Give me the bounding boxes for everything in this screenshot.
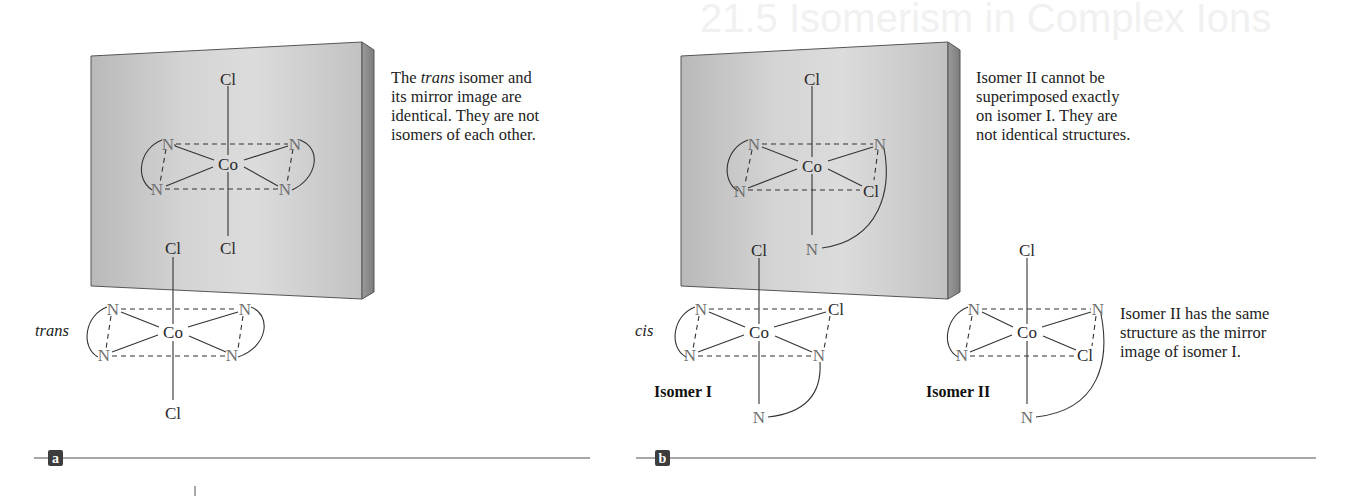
atom-bottom: N: [1021, 408, 1033, 427]
atom-eq-bottom-right: N: [226, 346, 238, 365]
atom-bottom: Cl: [165, 404, 181, 423]
atom-eq-top-left: N: [162, 135, 174, 154]
atom-eq-top-right: N: [874, 135, 886, 154]
caption-line: superimposed exactly: [976, 87, 1130, 106]
panel-a-rule: a: [34, 450, 590, 466]
isomer-I-label: Isomer I: [654, 383, 712, 400]
atom-eq-top-right: N: [289, 135, 301, 154]
atom-eq-top-left: N: [107, 300, 119, 319]
isomer-II-label: Isomer II: [926, 383, 990, 400]
caption-panel-b: Isomer II cannot be superimposed exactly…: [976, 68, 1130, 144]
atom-eq-bottom-right: N: [279, 180, 291, 199]
atom-center: Co: [1017, 323, 1037, 342]
atom-eq-bottom-left: N: [98, 346, 110, 365]
atom-top: Cl: [1019, 241, 1035, 260]
caption-line: The trans isomer and: [391, 68, 539, 87]
atom-eq-bottom-left: N: [734, 182, 746, 201]
atom-top: Cl: [165, 239, 181, 258]
caption-line: identical. They are not: [391, 106, 539, 125]
caption-italic-trans: trans: [421, 68, 455, 87]
atom-eq-top-left: N: [748, 135, 760, 154]
atom-eq-top-right: Cl: [828, 300, 844, 319]
atom-top: Cl: [751, 241, 767, 260]
caption-text: isomer and: [455, 68, 532, 87]
caption-line: not identical structures.: [976, 125, 1130, 144]
atom-eq-bottom-right: Cl: [863, 182, 879, 201]
figure-isomerism: 21.5 Isomerism in Complex Ions: [0, 0, 1354, 496]
atom-eq-top-right: N: [239, 300, 251, 319]
caption-line: on isomer I. They are: [976, 106, 1130, 125]
isomer-type-label: cis: [635, 321, 653, 340]
atom-eq-bottom-left: N: [151, 180, 163, 199]
atom-eq-bottom-left: N: [956, 346, 968, 365]
atom-eq-top-right: N: [1092, 300, 1104, 319]
isomer-type-label: trans: [35, 321, 69, 340]
atom-eq-top-left: N: [968, 300, 980, 319]
panel-label-b: b: [659, 451, 667, 466]
caption-isomer-II: Isomer II has the same structure as the …: [1120, 304, 1269, 361]
atom-center: Co: [218, 155, 238, 174]
caption-line: image of isomer I.: [1120, 342, 1269, 361]
atom-center: Co: [749, 323, 769, 342]
atom-bottom: N: [753, 408, 765, 427]
atom-eq-top-left: N: [695, 300, 707, 319]
atom-bottom: Cl: [220, 239, 236, 258]
atom-eq-bottom-right: Cl: [1077, 346, 1093, 365]
atom-eq-bottom-right: N: [813, 346, 825, 365]
panel-b-rule: b: [636, 450, 1316, 466]
atom-top: Cl: [804, 70, 820, 89]
caption-line: structure as the mirror: [1120, 323, 1269, 342]
atom-top: Cl: [220, 70, 236, 89]
caption-line: its mirror image are: [391, 87, 539, 106]
atom-center: Co: [163, 323, 183, 342]
caption-line: Isomer II has the same: [1120, 304, 1269, 323]
caption-line: isomers of each other.: [391, 125, 539, 144]
panel-label-a: a: [52, 451, 59, 466]
atom-eq-bottom-left: N: [684, 346, 696, 365]
atom-bottom: N: [806, 240, 818, 259]
diagram-canvas: Cl Co N N N N Cl: [0, 0, 1354, 496]
caption-line: Isomer II cannot be: [976, 68, 1130, 87]
caption-text: The: [391, 68, 421, 87]
caption-panel-a: The trans isomer and its mirror image ar…: [391, 68, 539, 144]
atom-center: Co: [802, 157, 822, 176]
